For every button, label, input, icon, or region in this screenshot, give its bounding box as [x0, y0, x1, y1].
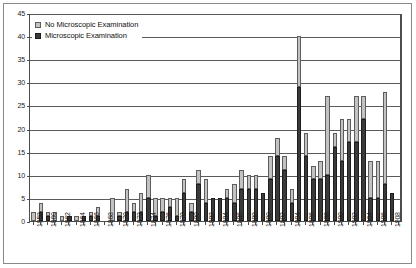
bar-group-1901	[340, 13, 344, 221]
bar-group-1909	[397, 13, 401, 221]
bar-segment-no-microscopic-1882	[204, 179, 208, 202]
x-tick-mark-1901	[341, 222, 342, 225]
x-tick-mark-1867	[97, 222, 98, 225]
x-tick-mark-1888	[248, 222, 249, 225]
x-tick-mark-1866	[90, 222, 91, 225]
x-tick-mark-1894	[291, 222, 292, 225]
y-tick-label-10: 10	[1, 172, 25, 179]
x-tick-mark-1862	[61, 222, 62, 225]
x-tick-mark-1875	[155, 222, 156, 225]
x-tick-mark-1868	[104, 222, 105, 225]
bar-group-1861	[53, 13, 57, 221]
x-tick-mark-1872	[133, 222, 134, 225]
x-tick-mark-1865	[83, 222, 84, 225]
x-tick-mark-1876	[162, 222, 163, 225]
bar-group-1908	[390, 13, 394, 221]
bar-segment-no-microscopic-1899	[325, 96, 329, 175]
x-tick-mark-1889	[255, 222, 256, 225]
x-tick-mark-1887	[241, 222, 242, 225]
bar-group-1878	[175, 13, 179, 221]
bar-segment-no-microscopic-1877	[168, 198, 172, 207]
bar-segment-no-microscopic-1872	[132, 203, 136, 212]
legend-swatch-icon-microscopic	[35, 33, 41, 39]
bar-segment-no-microscopic-1903	[354, 96, 358, 142]
y-tick-label-15: 15	[1, 149, 25, 156]
bar-segment-no-microscopic-1902	[347, 119, 351, 142]
x-tick-mark-1858	[33, 222, 34, 225]
x-tick-mark-1892	[276, 222, 277, 225]
bar-segment-no-microscopic-1906	[376, 161, 380, 198]
x-tick-mark-1871	[126, 222, 127, 225]
x-tick-mark-1908	[391, 222, 392, 225]
y-tick-label-45: 45	[1, 10, 25, 17]
bar-segment-no-microscopic-1891	[268, 156, 272, 179]
x-tick-mark-1874	[147, 222, 148, 225]
bar-segment-no-microscopic-1907	[383, 92, 387, 184]
x-tick-mark-1898	[320, 222, 321, 225]
bar-group-1889	[254, 13, 258, 221]
legend-label-no-microscopic: No Microscopic Examination	[45, 21, 138, 29]
bar-group-1907	[383, 13, 387, 221]
bar-group-1880	[189, 13, 193, 221]
x-tick-mark-1905	[370, 222, 371, 225]
legend-label-microscopic: Microscopic Examination	[45, 32, 127, 40]
bar-segment-microscopic-1902	[347, 142, 351, 221]
bar-segment-no-microscopic-1895	[297, 36, 301, 87]
x-tick-mark-1881	[198, 222, 199, 225]
bar-group-1885	[225, 13, 229, 221]
x-tick-mark-1869	[111, 222, 112, 225]
bar-group-1863	[67, 13, 71, 221]
chart-legend: No Microscopic Examination Microscopic E…	[32, 17, 142, 43]
x-tick-mark-1886	[233, 222, 234, 225]
bar-group-1890	[261, 13, 265, 221]
y-tick-label-35: 35	[1, 56, 25, 63]
x-tick-mark-1885	[226, 222, 227, 225]
x-tick-mark-1878	[176, 222, 177, 225]
bar-group-1886	[232, 13, 236, 221]
bar-group-1898	[318, 13, 322, 221]
bar-segment-no-microscopic-1885	[225, 189, 229, 198]
x-tick-mark-1870	[119, 222, 120, 225]
x-tick-mark-1895	[298, 222, 299, 225]
bar-segment-no-microscopic-1887	[239, 170, 243, 188]
bar-segment-no-microscopic-1888	[247, 175, 251, 189]
x-tick-mark-1903	[355, 222, 356, 225]
bar-segment-microscopic-1900	[333, 147, 337, 221]
bar-group-1873	[139, 13, 143, 221]
x-tick-mark-1880	[190, 222, 191, 225]
bar-group-1893	[282, 13, 286, 221]
x-tick-mark-1907	[384, 222, 385, 225]
bar-group-1872	[132, 13, 136, 221]
bar-group-1904	[361, 13, 365, 221]
bar-segment-no-microscopic-1873	[139, 193, 143, 211]
bar-group-1905	[368, 13, 372, 221]
bar-segment-no-microscopic-1893	[282, 156, 286, 170]
bar-group-1866	[89, 13, 93, 221]
bar-group-1883	[211, 13, 215, 221]
bar-segment-no-microscopic-1886	[232, 184, 236, 202]
bar-group-1871	[125, 13, 129, 221]
bar-segment-no-microscopic-1876	[160, 198, 164, 212]
x-tick-mark-1899	[327, 222, 328, 225]
x-tick-mark-1891	[269, 222, 270, 225]
y-tick-mark-0	[27, 222, 30, 223]
bar-group-1879	[182, 13, 186, 221]
bar-segment-no-microscopic-1900	[333, 133, 337, 147]
bar-segment-no-microscopic-1904	[361, 96, 365, 119]
bar-group-1882	[204, 13, 208, 221]
bar-segment-no-microscopic-1905	[368, 161, 372, 198]
x-tick-mark-1906	[377, 222, 378, 225]
bar-segment-no-microscopic-1892	[275, 138, 279, 156]
x-tick-mark-1896	[305, 222, 306, 225]
bar-segment-no-microscopic-1896	[304, 133, 308, 156]
bar-group-1902	[347, 13, 351, 221]
bar-group-1858	[31, 13, 35, 221]
bar-group-1862	[60, 13, 64, 221]
x-tick-mark-1864	[76, 222, 77, 225]
bar-group-1869	[110, 13, 114, 221]
bar-segment-microscopic-1903	[354, 142, 358, 221]
bar-group-1860	[46, 13, 50, 221]
legend-item-no-microscopic-examination: No Microscopic Examination	[35, 19, 138, 30]
x-tick-mark-1863	[68, 222, 69, 225]
x-tick-mark-1900	[334, 222, 335, 225]
